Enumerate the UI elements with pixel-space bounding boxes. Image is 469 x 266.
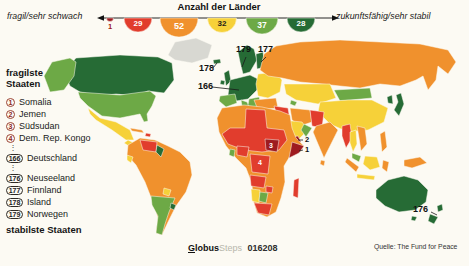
country-name: Somalia: [19, 97, 52, 107]
country-name: Finnland: [27, 185, 62, 195]
list-item: 3 Südsudan: [6, 120, 118, 132]
ranking-heading-bottom: stabilste Staaten: [6, 225, 106, 236]
legend-count-37: 37: [257, 20, 266, 30]
list-item: 176 Neuseeland: [6, 172, 118, 184]
map-callout-island: 178: [199, 63, 214, 73]
legend-right-label: zukunftsfähig/sehr stabil: [336, 11, 430, 21]
ranking-list: fragilste Staaten 1 Somalia 2 Jemen 3 Sü…: [6, 68, 118, 236]
legend-count-32: 32: [218, 19, 227, 28]
country-name: Dem. Rep. Kongo: [19, 133, 91, 143]
map-callout-norwegen: 179: [236, 44, 251, 54]
asia: [260, 40, 456, 180]
rank-badge: 1: [6, 98, 15, 107]
brand-number: 016208: [248, 243, 278, 253]
oceania: [376, 176, 443, 224]
country-name: Südsudan: [19, 121, 60, 131]
south-america: [127, 138, 192, 235]
rank-badge: 178: [6, 198, 23, 207]
country-name: Norwegen: [27, 209, 68, 219]
map-callout-suedsudan: 3: [269, 142, 273, 149]
rank-badge: 176: [6, 174, 23, 183]
rank-badge: 3: [6, 122, 15, 131]
brand-logo: GlobusSteps 016208: [188, 243, 278, 253]
country-name: Jemen: [19, 109, 46, 119]
list-item: 166 Deutschland: [6, 152, 118, 164]
legend-left-label: fragil/sehr schwach: [7, 11, 82, 21]
rank-badge: 4: [6, 134, 15, 143]
brand-name: Globus: [188, 243, 219, 253]
list-item: 179 Norwegen: [6, 208, 118, 220]
legend-title: Anzahl der Länder: [163, 1, 275, 12]
map-callout-finnland: 177: [258, 44, 273, 54]
legend-count-1: 1: [108, 22, 112, 31]
ellipsis: ⋮: [9, 144, 118, 152]
legend-count-52: 52: [174, 21, 184, 31]
ellipsis: ⋮: [9, 164, 118, 172]
map-callout-jemen: 2: [305, 135, 309, 144]
map-callout-deutschland: 166: [198, 81, 213, 91]
map-callout-kongo: 4: [258, 159, 262, 166]
list-item: 4 Dem. Rep. Kongo: [6, 132, 118, 144]
rank-badge: 2: [6, 110, 15, 119]
rank-badge: 166: [6, 154, 23, 163]
map-callout-neuseeland: 176: [413, 204, 428, 214]
list-item: 2 Jemen: [6, 108, 118, 120]
list-item: 178 Island: [6, 196, 118, 208]
list-item: 177 Finnland: [6, 184, 118, 196]
brand-suffix: Steps: [219, 243, 242, 253]
rank-badge: 179: [6, 210, 23, 219]
ranking-heading-top: fragilste Staaten: [6, 68, 58, 89]
list-item: 1 Somalia: [6, 96, 118, 108]
source-credit: Quelle: The Fund for Peace: [374, 243, 457, 250]
map-callout-somalia: 1: [305, 145, 309, 154]
country-name: Neuseeland: [27, 173, 75, 183]
country-name: Deutschland: [27, 153, 77, 163]
fragile-states-infographic: fragil/sehr schwach Anzahl der Länder zu…: [0, 0, 469, 266]
legend-count-29: 29: [134, 19, 143, 28]
legend-count-28: 28: [297, 19, 306, 28]
country-name: Island: [27, 197, 51, 207]
rank-badge: 177: [6, 186, 23, 195]
